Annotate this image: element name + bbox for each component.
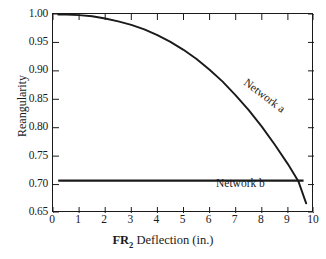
x-axis-title-suffix: Deflection (in.) — [133, 233, 213, 247]
y-tick-label-0.70: 0.70 — [4, 178, 48, 190]
y-axis-ticks-left — [53, 14, 59, 213]
x-axis-title: FR2 Deflection (in.) — [0, 234, 326, 252]
series-line-network-a — [58, 15, 306, 204]
x-tick-label-7: 7 — [225, 214, 245, 226]
y-axis-title: Reangularity — [16, 36, 28, 176]
x-tick-label-4: 4 — [146, 214, 166, 226]
chart-screenshot: 1.00 0.95 0.90 0.85 0.80 0.75 0.70 0.65 … — [0, 0, 326, 259]
x-tick-label-6: 6 — [199, 214, 219, 226]
x-tick-label-5: 5 — [173, 214, 193, 226]
x-tick-label-9: 9 — [277, 214, 297, 226]
y-axis-ticks-right — [308, 14, 314, 213]
x-tick-label-8: 8 — [251, 214, 271, 226]
x-tick-label-2: 2 — [94, 214, 114, 226]
x-tick-label-0: 0 — [42, 214, 62, 226]
plot-canvas — [53, 14, 314, 213]
x-tick-label-1: 1 — [68, 214, 88, 226]
x-tick-label-10: 10 — [303, 214, 323, 226]
x-axis-title-prefix: FR — [112, 233, 129, 247]
x-axis-tick-labels: 0 1 2 3 4 5 6 7 8 9 10 — [0, 214, 326, 234]
plot-area: Network a Network b — [52, 13, 313, 212]
x-tick-label-3: 3 — [120, 214, 140, 226]
y-tick-label-1.00: 1.00 — [4, 8, 48, 20]
series-label-network-b: Network b — [216, 177, 265, 189]
